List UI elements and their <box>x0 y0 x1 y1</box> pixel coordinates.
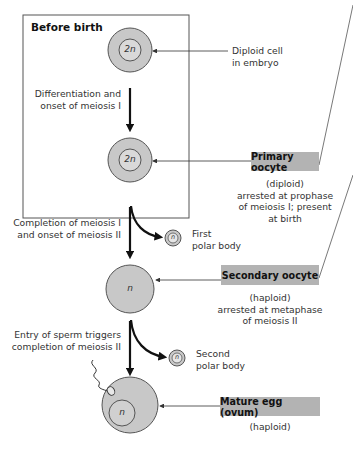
arrow-to-second-polar-body <box>131 320 164 357</box>
before-birth-box <box>23 15 189 218</box>
polar2-cell-label: n <box>172 353 182 361</box>
step3-line-1: Entry of sperm triggers <box>12 329 121 341</box>
step2-line-2: and onset of meiosis II <box>13 229 121 241</box>
secondary-desc-line-3: of meiosis II <box>215 315 325 327</box>
second-polar-line-1: Second <box>196 348 245 360</box>
embryo-cell-label: 2n <box>120 44 140 54</box>
polar1-cell-label: n <box>168 233 178 241</box>
primary-desc-line-4: at birth <box>230 213 340 225</box>
first-polar-line-2: polar body <box>192 240 241 252</box>
sperm-icon <box>92 360 117 397</box>
secondary-desc-line-1: (haploid) <box>215 292 325 304</box>
primary-desc-line-2: arrested at prophase <box>230 190 340 202</box>
secondary-desc-line-2: arrested at metaphase <box>215 304 325 316</box>
primary-oocyte-description: (diploid) arrested at prophase of meiosi… <box>230 178 340 224</box>
primary-desc-line-3: of meiosis I; present <box>230 201 340 213</box>
egg-cell-label: n <box>112 407 132 417</box>
secondary-oocyte-description: (haploid) arrested at metaphase of meios… <box>215 292 325 327</box>
primary-cell-label: 2n <box>120 154 140 164</box>
first-polar-body-label: First polar body <box>192 228 241 251</box>
step1-line-1: Differentiation and <box>35 88 121 100</box>
second-polar-body-label: Second polar body <box>196 348 245 371</box>
embryo-cell-note: Diploid cell in embryo <box>232 45 283 68</box>
primary-callout-line <box>319 5 353 165</box>
step-sperm-entry: Entry of sperm triggers completion of me… <box>12 329 121 352</box>
secondary-cell-label: n <box>120 283 140 293</box>
step-meiosis-1: Completion of meiosis I and onset of mei… <box>13 217 121 240</box>
step1-line-2: onset of meiosis I <box>35 100 121 112</box>
first-polar-line-1: First <box>192 228 241 240</box>
primary-oocyte-tag: Primary oocyte <box>251 152 319 171</box>
arrow-to-first-polar-body <box>131 206 160 237</box>
step2-line-1: Completion of meiosis I <box>13 217 121 229</box>
before-birth-title: Before birth <box>31 21 103 33</box>
embryo-note-line-1: Diploid cell <box>232 45 283 57</box>
step3-line-2: completion of meiosis II <box>12 341 121 353</box>
mature-egg-tag: Mature egg (ovum) <box>220 397 320 416</box>
step-differentiation: Differentiation and onset of meiosis I <box>35 88 121 111</box>
primary-desc-line-1: (diploid) <box>230 178 340 190</box>
mature-egg-description: (haploid) <box>215 421 325 433</box>
mature-egg-cell <box>102 377 158 433</box>
second-polar-line-2: polar body <box>196 360 245 372</box>
embryo-note-line-2: in embryo <box>232 57 283 69</box>
secondary-oocyte-tag: Secondary oocyte <box>221 265 319 285</box>
